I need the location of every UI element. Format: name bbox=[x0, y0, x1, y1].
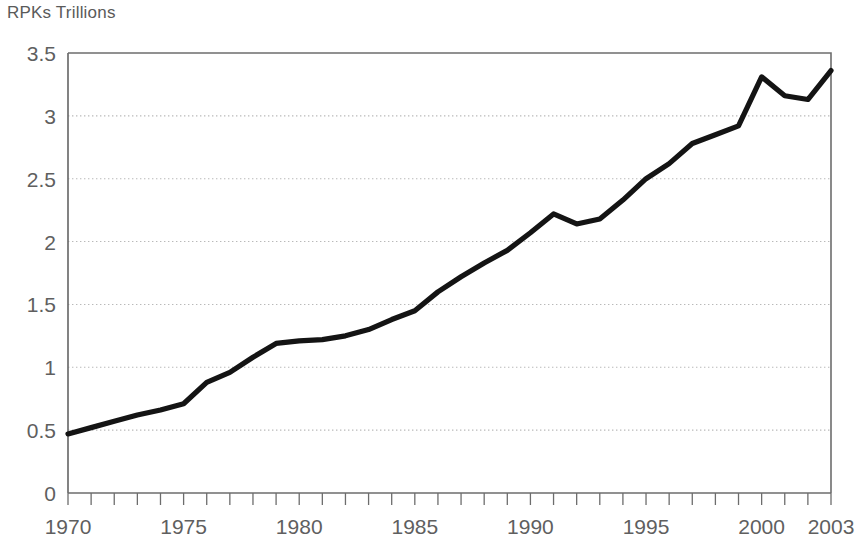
y-tick-label-2: 2 bbox=[44, 231, 56, 254]
x-tick-label-2003: 2003 bbox=[808, 515, 855, 538]
plot-frame bbox=[68, 53, 831, 493]
y-tick-label-3: 3 bbox=[44, 105, 56, 128]
x-axis-tick-labels: 19701975198019851990199520002003 bbox=[45, 515, 855, 538]
chart-container: RPKs Trillions 00.511.522.533.5 19701975… bbox=[0, 0, 857, 538]
data-series-group bbox=[68, 71, 831, 434]
y-tick-label-3.5: 3.5 bbox=[27, 42, 56, 65]
plot-frame-border bbox=[68, 53, 831, 493]
x-tick-label-2000: 2000 bbox=[738, 515, 785, 538]
y-tick-label-0.5: 0.5 bbox=[27, 419, 56, 442]
gridlines bbox=[68, 116, 831, 430]
x-tick-label-1970: 1970 bbox=[45, 515, 92, 538]
x-tick-label-1975: 1975 bbox=[160, 515, 207, 538]
y-axis-tick-labels: 00.511.522.533.5 bbox=[27, 42, 56, 505]
y-tick-label-0: 0 bbox=[44, 482, 56, 505]
x-tick-label-1990: 1990 bbox=[507, 515, 554, 538]
y-tick-label-1.5: 1.5 bbox=[27, 293, 56, 316]
x-tick-label-1980: 1980 bbox=[276, 515, 323, 538]
x-axis-tickmarks bbox=[68, 493, 831, 505]
line-chart-plot: 00.511.522.533.5 19701975198019851990199… bbox=[0, 0, 857, 538]
y-tick-label-1: 1 bbox=[44, 356, 56, 379]
data-line-RPKs bbox=[68, 71, 831, 434]
y-tick-label-2.5: 2.5 bbox=[27, 168, 56, 191]
x-tick-label-1995: 1995 bbox=[623, 515, 670, 538]
x-tick-label-1985: 1985 bbox=[391, 515, 438, 538]
